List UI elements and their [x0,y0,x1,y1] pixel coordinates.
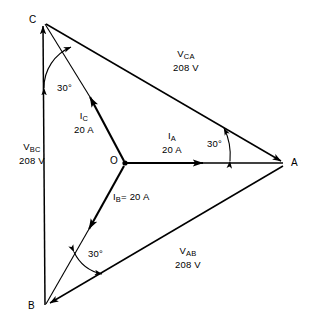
angle-label-bottom-left: 30° [88,248,103,259]
label-v-ca-symbol: VCA [153,48,219,62]
label-i-c-symbol: IC [64,110,104,124]
vector-v-ab [50,166,283,303]
label-v-bc-symbol: VBC [10,141,54,155]
label-i-a-magnitude: 20 A [150,144,194,155]
i-b-inline-magnitude: = 20 A [121,191,149,202]
angle-label-top-left: 30° [57,82,72,93]
label-v-bc: VBC 208 V [10,141,54,166]
i-c-subscript: C [83,114,89,123]
phasor-diagram-figure: C B A O VCA 208 V VBC 208 V VAB 208 V IA… [0,0,312,327]
v-bc-subscript: BC [30,145,41,154]
node-label-c: C [29,14,36,25]
node-label-a: A [291,157,298,168]
v-ca-subscript: CA [184,52,195,61]
label-i-a-symbol: IA [150,130,194,144]
node-label-b: B [28,300,35,311]
label-v-ab-symbol: VAB [155,245,221,259]
label-i-b: IB= 20 A [113,191,149,205]
origin-node-dot [122,160,127,165]
node-label-o: O [110,155,118,166]
label-v-ca: VCA 208 V [153,48,219,73]
label-v-bc-magnitude: 208 V [10,155,54,166]
vector-i-b [46,166,124,304]
label-i-a: IA 20 A [150,130,194,155]
label-i-c: IC 20 A [64,110,104,135]
angle-arc-right [224,128,230,161]
label-v-ab: VAB 208 V [155,245,221,270]
label-v-ca-magnitude: 208 V [153,62,219,73]
label-v-ab-magnitude: 208 V [155,259,221,270]
angle-label-right: 30° [207,138,222,149]
label-i-c-magnitude: 20 A [64,124,104,135]
v-ab-subscript: AB [186,249,196,258]
i-a-subscript: A [171,134,176,143]
